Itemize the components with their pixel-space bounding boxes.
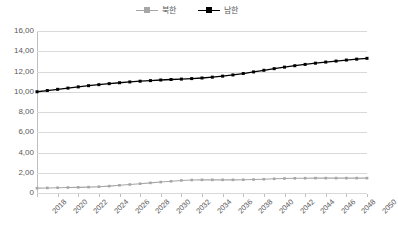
data-point [66,87,69,90]
x-tick-label: 2018 [51,198,68,215]
data-point [36,187,39,190]
data-point [108,185,111,188]
legend-item-1[interactable]: 남한 [198,6,238,15]
data-point [159,181,162,184]
data-point [77,186,80,189]
x-tick-label: 2028 [154,198,171,215]
x-tick-label: 2048 [360,198,377,215]
data-point [56,88,59,91]
data-point [273,178,276,181]
x-tick-mark [264,194,265,197]
data-point [46,89,49,92]
x-tick-mark [346,194,347,197]
data-point [97,83,100,86]
data-point [242,178,245,181]
data-point [263,178,266,181]
data-point [335,177,338,180]
data-point [46,187,49,190]
data-point [139,182,142,185]
data-point [56,186,59,189]
x-tick-mark [326,194,327,197]
x-tick-label: 2032 [195,198,212,215]
data-point [242,72,245,75]
x-tick-mark [140,194,141,197]
x-tick-label: 2034 [216,198,233,215]
data-point [159,79,162,82]
data-point [201,76,204,79]
data-point [221,75,224,78]
plot-area [37,31,367,193]
x-tick-label: 2050 [381,198,398,215]
x-axis-labels: 2018202020222024202620282030203220342036… [37,194,367,237]
data-point [87,186,90,189]
legend-marker-0 [144,7,150,13]
x-tick-mark [99,194,100,197]
data-point [36,90,39,93]
data-point [98,185,101,188]
y-tick-label: 4,00 [0,149,34,157]
data-point [211,76,214,79]
x-tick-label: 2044 [319,198,336,215]
data-point [345,177,348,180]
x-tick-mark [161,194,162,197]
x-tick-mark [243,194,244,197]
y-tick-label: 10,00 [0,88,34,96]
x-tick-label: 2026 [133,198,150,215]
data-point [180,78,183,81]
x-tick-label: 2024 [113,198,130,215]
series-layer [37,31,367,193]
data-point [232,179,235,182]
x-tick-mark [58,194,59,197]
data-point [221,179,224,182]
y-axis-labels: 16,0014,0012,0010,008,006,004,002,000 [0,0,34,237]
data-point [283,177,286,180]
data-point [170,180,173,183]
legend-label-1: 남한 [224,6,238,15]
legend-key-icon-0 [136,6,158,15]
x-tick-mark [181,194,182,197]
data-point [366,177,369,180]
legend-label-0: 북한 [162,6,176,15]
x-tick-mark [202,194,203,197]
data-point [262,69,265,72]
legend-item-0[interactable]: 북한 [136,6,176,15]
data-point [304,63,307,66]
x-tick-label: 2036 [237,198,254,215]
x-tick-mark [78,194,79,197]
data-point [314,177,317,180]
data-point [283,66,286,69]
data-point [190,179,193,182]
data-point [273,67,276,70]
y-tick-label: 16,00 [0,27,34,35]
data-point [293,64,296,67]
x-tick-mark [305,194,306,197]
x-tick-mark [367,194,368,197]
data-point [170,78,173,81]
data-point [149,79,152,82]
data-point [149,182,152,185]
data-point [87,84,90,87]
data-point [190,77,193,80]
data-point [67,186,70,189]
data-point [129,183,132,186]
x-tick-label: 2040 [278,198,295,215]
data-point [118,81,121,84]
y-tick-label: 0 [0,189,34,197]
y-tick-label: 8,00 [0,108,34,116]
x-tick-label: 2022 [92,198,109,215]
data-point [180,179,183,182]
x-tick-mark [37,194,38,197]
data-point [324,177,327,180]
data-point [252,70,255,73]
data-point [201,179,204,182]
data-point [252,178,255,181]
data-point [314,62,317,65]
data-point [324,61,327,64]
x-tick-label: 2046 [340,198,357,215]
x-tick-label: 2030 [175,198,192,215]
data-point [211,179,214,182]
x-tick-label: 2020 [72,198,89,215]
x-tick-mark [120,194,121,197]
data-point [294,177,297,180]
x-tick-mark [223,194,224,197]
